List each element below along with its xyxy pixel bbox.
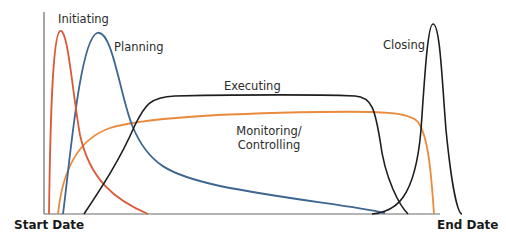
executing-label: Executing [224,79,281,93]
monitoring-controlling-label: Monitoring/ Controlling [224,124,314,152]
executing-curve [84,95,408,214]
initiating-label: Initiating [58,12,109,26]
end-date-label: End Date [437,218,498,232]
monitoring-label-line1: Monitoring/ [224,124,314,138]
closing-label: Closing [383,38,425,52]
closing-curve [372,24,462,214]
process-group-chart [0,0,506,246]
start-date-label: Start Date [14,218,84,232]
monitoring-label-line2: Controlling [224,138,314,152]
planning-label: Planning [114,40,164,54]
